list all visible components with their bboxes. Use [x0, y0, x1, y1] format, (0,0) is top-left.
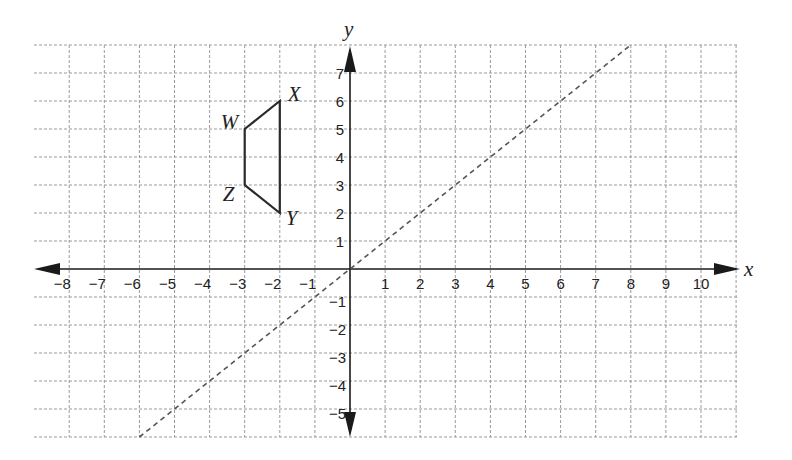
x-tick-label: 9	[662, 275, 670, 292]
y-tick-label: 2	[336, 205, 344, 222]
vertex-label-z: Z	[223, 182, 235, 206]
plot-svg: xy WXYZ −8−7−6−5−4−3−2−11234567891012345…	[0, 0, 792, 460]
y-tick-label: −1	[329, 293, 346, 310]
vertex-label-y: Y	[286, 206, 300, 230]
coordinate-plane: xy WXYZ −8−7−6−5−4−3−2−11234567891012345…	[0, 0, 792, 460]
x-tick-label: 2	[416, 275, 424, 292]
x-tick-label: −2	[264, 275, 281, 292]
y-tick-label: −3	[329, 349, 346, 366]
x-axis-left-arrow-icon	[34, 263, 60, 275]
axes: xy	[34, 17, 754, 437]
x-tick-label: 7	[592, 275, 600, 292]
y-tick-label: 4	[336, 149, 344, 166]
x-axis-right-arrow-icon	[714, 263, 740, 275]
x-tick-label: −3	[229, 275, 246, 292]
x-axis-label: x	[743, 257, 754, 281]
x-tick-label: 5	[521, 275, 529, 292]
quadrilateral-wxyz: WXYZ	[221, 82, 302, 230]
x-tick-label: −7	[89, 275, 106, 292]
x-tick-label: 6	[556, 275, 564, 292]
y-tick-label: −2	[329, 321, 346, 338]
vertex-label-x: X	[287, 82, 302, 106]
x-tick-label: −4	[194, 275, 211, 292]
y-tick-label: 3	[336, 177, 344, 194]
y-axis-label: y	[342, 17, 354, 41]
y-tick-label: 6	[336, 93, 344, 110]
x-tick-label: 1	[381, 275, 389, 292]
y-axis-up-arrow-icon	[344, 46, 356, 72]
x-tick-label: 3	[451, 275, 459, 292]
y-tick-label: 7	[336, 65, 344, 82]
x-tick-label: 8	[627, 275, 635, 292]
x-tick-label: −8	[54, 275, 71, 292]
y-tick-label: 5	[336, 121, 344, 138]
x-tick-label: 10	[693, 275, 710, 292]
x-tick-label: −1	[299, 275, 316, 292]
y-tick-label: −4	[329, 377, 346, 394]
x-tick-label: −5	[159, 275, 176, 292]
y-tick-label: −5	[329, 405, 346, 422]
x-tick-label: −6	[124, 275, 141, 292]
x-tick-label: 4	[486, 275, 494, 292]
y-tick-label: 1	[336, 233, 344, 250]
vertex-label-w: W	[221, 110, 241, 134]
